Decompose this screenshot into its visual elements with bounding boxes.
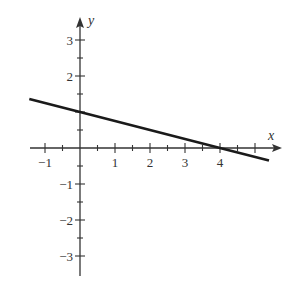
y-tick-label: −3 xyxy=(59,249,73,264)
x-tick-label: 3 xyxy=(182,155,189,170)
y-tick-label: −1 xyxy=(59,177,73,192)
series-line xyxy=(29,99,269,161)
x-tick-label: −1 xyxy=(38,155,52,170)
line-chart: −11234−3−2−123 x y xyxy=(0,0,297,284)
x-tick-label: 4 xyxy=(217,155,224,170)
y-tick-label: 3 xyxy=(67,33,74,48)
y-tick-label: 2 xyxy=(67,69,74,84)
y-axis-label: y xyxy=(86,13,95,28)
x-tick-label: 2 xyxy=(147,155,154,170)
x-tick-label: 1 xyxy=(112,155,119,170)
x-axis-label: x xyxy=(267,128,275,143)
data-series xyxy=(29,99,269,161)
y-tick-label: −2 xyxy=(59,213,73,228)
axes xyxy=(30,17,282,276)
